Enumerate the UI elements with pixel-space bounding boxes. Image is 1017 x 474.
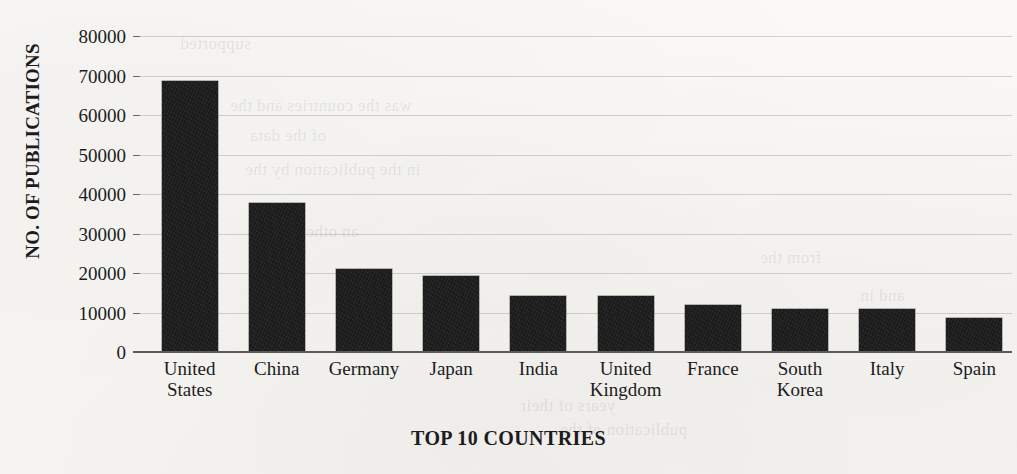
y-axis-tick-mark xyxy=(133,234,140,235)
x-axis-tick-label-line: States xyxy=(146,379,233,400)
x-axis-tick-label: China xyxy=(233,358,320,379)
bar-france[interactable] xyxy=(685,305,741,352)
x-axis-tick-label: Germany xyxy=(320,358,407,379)
x-axis-tick-label-line: Kingdom xyxy=(582,379,669,400)
x-axis-tick-label: SouthKorea xyxy=(756,358,843,401)
bar-italy[interactable] xyxy=(859,309,915,352)
x-axis-tick-label: Spain xyxy=(931,358,1017,379)
x-axis-tick-label-line: India xyxy=(495,358,582,379)
y-axis-tick-mark xyxy=(133,36,140,37)
y-axis-tick-label: 30000 xyxy=(38,225,126,244)
y-axis-tick-labels: 8000070000600005000040000300002000010000… xyxy=(34,0,126,474)
x-axis-title: TOP 10 COUNTRIES xyxy=(0,427,1017,450)
y-axis-tick-label: 0 xyxy=(38,343,126,362)
bar-china[interactable] xyxy=(249,203,305,352)
plot-area xyxy=(140,36,1012,352)
y-axis-tick-label: 40000 xyxy=(38,185,126,204)
x-axis-tick-label: Italy xyxy=(844,358,931,379)
bar-united-states[interactable] xyxy=(162,81,218,352)
y-axis-tick-label: 80000 xyxy=(38,27,126,46)
x-axis-tick-label-line: Spain xyxy=(931,358,1017,379)
bar-japan[interactable] xyxy=(423,276,479,352)
y-axis-tick-mark xyxy=(133,313,140,314)
y-axis-tick-label: 70000 xyxy=(38,67,126,86)
y-axis-tick-label: 20000 xyxy=(38,264,126,283)
x-axis-tick-label: Japan xyxy=(408,358,495,379)
x-axis-tick-label-line: France xyxy=(669,358,756,379)
bar-india[interactable] xyxy=(510,296,566,352)
y-axis-tick-mark xyxy=(133,115,140,116)
bar-germany[interactable] xyxy=(336,269,392,352)
x-axis-tick-label-line: China xyxy=(233,358,320,379)
x-axis-tick-label: UnitedKingdom xyxy=(582,358,669,401)
y-axis-tick-mark xyxy=(133,76,140,77)
x-axis-tick-label: UnitedStates xyxy=(146,358,233,401)
bar-south-korea[interactable] xyxy=(772,309,828,352)
x-axis-tick-label-line: Germany xyxy=(320,358,407,379)
x-axis-tick-label-line: South xyxy=(756,358,843,379)
y-axis-tick-label: 50000 xyxy=(38,146,126,165)
y-axis-tick-mark xyxy=(133,194,140,195)
x-axis-tick-label-line: Italy xyxy=(844,358,931,379)
x-axis-tick-label: India xyxy=(495,358,582,379)
y-axis-tick-label: 10000 xyxy=(38,304,126,323)
y-axis-tick-label: 60000 xyxy=(38,106,126,125)
y-axis-tick-mark xyxy=(133,273,140,274)
x-axis-tick-label-line: Korea xyxy=(756,379,843,400)
x-axis-line xyxy=(133,351,1012,353)
x-axis-tick-label-line: United xyxy=(146,358,233,379)
chart-page: supported was the countries and the of t… xyxy=(0,0,1017,474)
bar-spain[interactable] xyxy=(946,318,1002,352)
x-axis-tick-label-line: Japan xyxy=(408,358,495,379)
y-axis-tick-mark xyxy=(133,155,140,156)
x-axis-tick-label: France xyxy=(669,358,756,379)
x-axis-tick-label-line: United xyxy=(582,358,669,379)
bar-united-kingdom[interactable] xyxy=(598,296,654,352)
